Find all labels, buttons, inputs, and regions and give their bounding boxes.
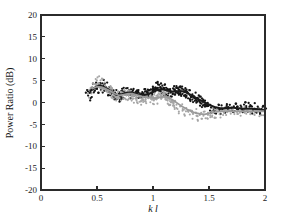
x-tick-label: 2	[263, 193, 268, 203]
data-point	[96, 88, 98, 90]
data-point	[244, 101, 246, 103]
data-point	[115, 99, 117, 101]
data-point	[181, 85, 183, 87]
data-point	[191, 98, 193, 100]
data-point	[197, 119, 199, 121]
data-point	[93, 83, 95, 85]
data-point	[175, 107, 177, 109]
data-point	[240, 115, 242, 117]
data-point	[172, 103, 174, 105]
data-point	[175, 85, 177, 87]
data-point	[102, 91, 104, 93]
y-axis-title: Power Ratio (dB)	[4, 68, 16, 139]
data-point	[165, 92, 167, 94]
data-point	[153, 103, 155, 105]
data-point	[112, 98, 114, 100]
x-tick-label: 1.5	[203, 193, 215, 203]
data-point	[156, 81, 158, 83]
data-point	[167, 92, 169, 94]
data-point	[132, 97, 134, 99]
data-point	[230, 113, 232, 115]
data-point	[183, 113, 185, 115]
data-point	[249, 113, 251, 115]
data-point	[106, 81, 108, 83]
data-point	[217, 103, 219, 105]
data-point	[137, 89, 139, 91]
data-point	[233, 113, 235, 115]
data-point	[235, 103, 237, 105]
y-tick-label: 5	[33, 76, 38, 86]
data-point	[219, 116, 221, 118]
data-point	[137, 102, 139, 104]
y-tick-label: 10	[28, 54, 38, 64]
data-point	[144, 88, 146, 90]
data-point	[173, 85, 175, 87]
data-point	[89, 99, 91, 101]
data-point	[99, 79, 101, 81]
data-point	[126, 87, 128, 89]
data-point	[117, 91, 119, 93]
data-point	[158, 92, 160, 94]
data-point	[95, 83, 97, 85]
data-point	[118, 97, 120, 99]
data-point	[101, 82, 103, 84]
data-point	[172, 92, 174, 94]
data-point	[189, 113, 191, 115]
data-point	[216, 109, 218, 111]
data-point	[214, 116, 216, 118]
data-point	[136, 97, 138, 99]
data-point	[214, 109, 216, 111]
y-tick-label: -15	[25, 163, 37, 173]
y-tick-label: -20	[25, 185, 37, 195]
data-point	[152, 85, 154, 87]
data-point	[114, 90, 116, 92]
data-point	[100, 89, 102, 91]
data-point	[88, 97, 90, 99]
data-point	[135, 100, 137, 102]
data-point	[163, 91, 165, 93]
data-point	[142, 99, 144, 101]
data-point	[237, 113, 239, 115]
data-point	[169, 88, 171, 90]
data-point	[85, 92, 87, 94]
data-point	[133, 102, 135, 104]
data-point	[164, 83, 166, 85]
data-point	[96, 76, 98, 78]
data-point	[243, 103, 245, 105]
data-point	[209, 109, 211, 111]
data-point	[91, 96, 93, 98]
data-point	[200, 95, 202, 97]
data-point	[96, 79, 98, 81]
data-point	[174, 94, 176, 96]
data-point	[93, 91, 95, 93]
data-point	[240, 104, 242, 106]
data-point	[171, 95, 173, 97]
data-point	[194, 92, 196, 94]
data-point	[184, 94, 186, 96]
x-tick-label: 1	[151, 193, 156, 203]
data-point	[220, 104, 222, 106]
data-point	[219, 113, 221, 115]
data-point	[129, 97, 131, 99]
x-axis-title: k l	[148, 203, 158, 214]
data-point	[120, 99, 122, 101]
data-point	[90, 92, 92, 94]
data-point	[262, 106, 264, 108]
data-point	[110, 97, 112, 99]
data-point	[197, 115, 199, 117]
data-point	[178, 112, 180, 114]
data-point	[223, 112, 225, 114]
data-point	[107, 94, 109, 96]
data-point	[211, 116, 213, 118]
y-tick-label: 0	[33, 98, 38, 108]
data-point	[183, 109, 185, 111]
data-point	[245, 113, 247, 115]
data-point	[199, 105, 201, 107]
data-point	[180, 95, 182, 97]
data-point	[97, 82, 99, 84]
power-ratio-scatter-chart: -20-15-10-50510152000.511.52 Power Ratio…	[0, 0, 281, 220]
data-point	[189, 100, 191, 102]
y-tick-label: 20	[28, 10, 38, 20]
data-point	[200, 118, 202, 120]
data-point	[123, 87, 125, 89]
